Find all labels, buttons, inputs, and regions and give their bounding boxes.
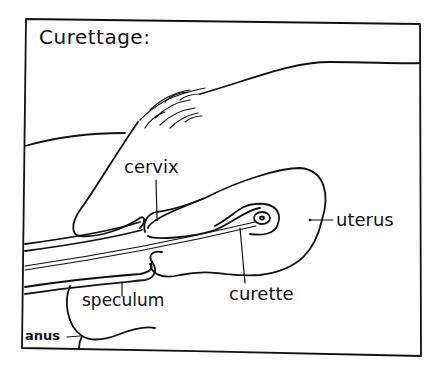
anterior-wall — [73, 122, 144, 236]
diagram-drawing — [0, 0, 436, 380]
cervix-lower-lip — [150, 252, 162, 262]
cervix-upper-lip — [144, 198, 205, 232]
pubic-hair — [140, 88, 205, 128]
uterus-outline — [148, 168, 326, 277]
label-uterus: uterus — [336, 211, 394, 229]
label-cervix: cervix — [124, 158, 179, 176]
label-speculum: speculum — [82, 292, 164, 309]
uterus-pointer-dot — [309, 219, 312, 222]
curette-tip-center — [260, 217, 264, 220]
cervix-pointer-dot — [156, 219, 159, 222]
curettage-diagram: Curettage: cervix uterus curette speculu… — [0, 0, 436, 380]
anus-line — [79, 336, 82, 349]
label-curette: curette — [229, 285, 294, 303]
curette-tip — [254, 212, 270, 224]
anus-pointer — [67, 336, 80, 337]
diagram-title: Curettage: — [39, 27, 150, 47]
body-outline — [25, 62, 420, 146]
label-anus: anus — [25, 329, 60, 342]
